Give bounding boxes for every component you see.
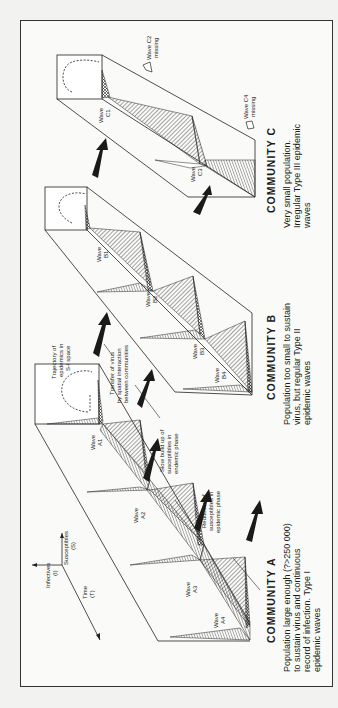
buildup-annotation-3: endemic phase [173, 433, 179, 474]
infectives-label: Infectives [45, 563, 51, 588]
community-b-desc-1: Population too small to sustain [282, 303, 292, 425]
community-c-desc-2: Irregular Type III epidemic [292, 124, 302, 228]
community-a-desc-4: epidemic waves [312, 607, 322, 672]
wave-c3-id: C3 [197, 168, 203, 176]
epidemic-waves-diagram: Infectives (I) Susceptibles (S) Time (T)… [0, 0, 338, 708]
wave-a2-label: Wave [133, 507, 139, 523]
community-c-block [57, 55, 255, 197]
buildup-annotation-2: susceptibles in [166, 435, 172, 474]
wave-b3-id: B3 [199, 347, 205, 355]
wave-c1-label: Wave [98, 107, 104, 123]
infectives-symbol: (I) [52, 570, 58, 576]
wave-b1-label: Wave [96, 246, 102, 262]
transfer-annotation-3: between communities [123, 345, 129, 403]
susceptibles-symbol: (S) [70, 542, 76, 550]
wave-c4-missing-sub: missing [250, 97, 256, 117]
reduction-annotation-1: Reduction of [201, 494, 207, 528]
wave-a3-label: Wave [185, 581, 191, 597]
wave-a1-id: A1 [97, 438, 103, 446]
wave-b2-id: B2 [152, 295, 158, 303]
wave-c1-id: C1 [105, 109, 111, 117]
wave-c2-missing-sub: missing [153, 38, 159, 58]
wave-b1-id: B1 [103, 250, 109, 258]
trajectory-annotation-2: epidemics in [58, 344, 64, 377]
community-a-desc-2: to sustain virus and continuous [292, 548, 302, 672]
wave-c2-missing-label: Wave C2 [146, 35, 152, 60]
community-c-desc-1: Very small population. [282, 140, 292, 228]
buildup-annotation-1: Slow build up of [159, 429, 165, 472]
community-c-title: COMMUNITY C [265, 127, 277, 213]
trajectory-annotation-1: Trajectory of [51, 346, 57, 379]
susceptibles-label: Susceptibles [63, 531, 69, 565]
wave-c4-missing-label: Wave C4 [243, 94, 249, 119]
transfer-annotation-2: by spatial interaction [116, 348, 122, 403]
wave-a2-id: A2 [140, 511, 146, 519]
community-a-desc-1: Population large enough (?>250 000) [282, 523, 292, 672]
wave-b2-label: Wave [145, 291, 151, 307]
community-a-desc-3: record of infection. Type I [302, 571, 312, 672]
community-a-title: COMMUNITY A [265, 557, 277, 643]
time-label: Time [82, 585, 88, 599]
reduction-annotation-2: susceptibles in [208, 492, 214, 531]
wave-b3-label: Wave [192, 343, 198, 359]
community-b-title: COMMUNITY B [265, 314, 277, 400]
wave-c3-label: Wave [190, 166, 196, 182]
wave-a3-id: A3 [192, 585, 198, 593]
transfer-annotation-1: Transfer of virus [109, 352, 115, 395]
wave-a4-label: Wave [213, 612, 219, 628]
wave-b4-label: Wave [214, 367, 220, 383]
reduction-annotation-3: epidemic phase [215, 490, 221, 533]
community-c-desc-3: waves [302, 202, 312, 229]
community-b-desc-2: virus, but regular Type II [292, 329, 302, 425]
trajectory-annotation-3: S-I space [65, 345, 71, 371]
time-symbol: (T) [89, 590, 95, 598]
community-b-desc-3: epidemic waves [302, 360, 312, 425]
wave-a1-label: Wave [90, 434, 96, 450]
wave-b4-id: B4 [221, 371, 227, 379]
wave-a4-id: A4 [220, 616, 226, 624]
